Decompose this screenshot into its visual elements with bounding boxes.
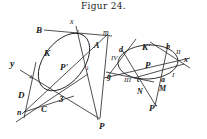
label-k-prime: K' — [141, 42, 151, 52]
label-p: P — [145, 60, 151, 70]
label-x: x — [69, 17, 74, 26]
label-1: 1 — [86, 65, 89, 71]
label-y: y — [9, 58, 15, 69]
right-figure: d K' b II x IV P g III c a I N M P' — [104, 39, 190, 113]
label-k: K — [43, 48, 51, 58]
label-c: c — [137, 75, 141, 84]
label-p-prime: P' — [149, 103, 157, 113]
label-b: b — [166, 42, 170, 51]
label-2: 2 — [76, 29, 79, 35]
left-figure: x B 2 m K A P' 1 y 4 D 3 C n P — [9, 17, 112, 131]
label-p: P — [99, 121, 105, 131]
line-c-i — [134, 64, 184, 78]
label-m: m — [103, 28, 109, 37]
label-a: A — [93, 41, 100, 50]
label-n: N — [136, 87, 144, 96]
label-c: C — [41, 104, 48, 114]
label-iii: III — [123, 76, 132, 84]
line-n-3 — [24, 96, 74, 112]
label-x: x — [183, 55, 188, 64]
label-a: a — [161, 75, 165, 84]
label-ii: II — [175, 48, 181, 56]
label-m: M — [158, 84, 167, 93]
label-n: n — [17, 108, 22, 117]
label-i: I — [171, 71, 175, 79]
label-p-prime: P' — [60, 62, 68, 72]
line-n-tangent — [16, 74, 88, 122]
label-3: 3 — [58, 94, 64, 104]
label-d: D — [17, 90, 25, 100]
label-iv: IV — [110, 54, 118, 62]
label-g: g — [106, 72, 111, 81]
label-4: 4 — [29, 74, 32, 80]
label-b: B — [35, 25, 42, 35]
diagram-canvas: x B 2 m K A P' 1 y 4 D 3 C n P d K' b II… — [0, 0, 207, 139]
